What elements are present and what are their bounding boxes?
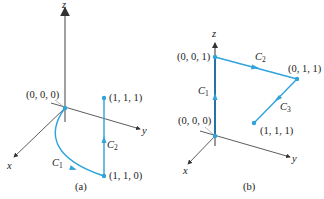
caption-b: (b) bbox=[243, 182, 255, 193]
arrow-c2-a bbox=[102, 136, 107, 143]
origin-leader-a bbox=[55, 100, 64, 107]
point-110-a bbox=[102, 174, 106, 178]
point-label-origin-a: (0, 0, 0) bbox=[26, 90, 59, 101]
curve-subscript: 1 bbox=[59, 161, 63, 170]
curve-label-c3-b: C3 bbox=[280, 102, 291, 114]
x-axis-label-b: x bbox=[183, 166, 188, 177]
point-label-110-a: (1, 1, 0) bbox=[109, 171, 142, 182]
x-axis-label-a: x bbox=[7, 161, 12, 172]
curve-name: C bbox=[280, 101, 287, 112]
curve-label-c1-b: C1 bbox=[198, 86, 209, 98]
caption-a: (a) bbox=[75, 182, 87, 193]
point-label-origin-b: (0, 0, 0) bbox=[178, 116, 211, 127]
x-axis-b bbox=[188, 136, 215, 164]
point-label-001-b: (0, 0, 1) bbox=[177, 52, 210, 63]
diagram-canvas: z y x (0, 0, 0) (1, 1, 1) (1, 1, 0) C1 C… bbox=[0, 0, 324, 199]
point-label-011-b: (0, 1, 1) bbox=[288, 64, 321, 75]
point-label-111-a: (1, 1, 1) bbox=[109, 93, 142, 104]
arrow-c1-b bbox=[213, 93, 218, 100]
curve-label-c1-a: C1 bbox=[52, 158, 63, 170]
point-011-b bbox=[295, 77, 299, 81]
curve-name: C bbox=[52, 157, 59, 168]
z-axis-label-a: z bbox=[62, 0, 66, 11]
point-001-b bbox=[213, 55, 217, 59]
point-111-a bbox=[102, 96, 106, 100]
curve-subscript: 1 bbox=[205, 89, 209, 98]
z-axis-label-b: z bbox=[212, 29, 216, 40]
curve-label-c2-b: C2 bbox=[255, 52, 266, 64]
curve-name: C bbox=[255, 51, 262, 62]
curve-name: C bbox=[107, 139, 114, 150]
curve-subscript: 2 bbox=[262, 55, 266, 64]
y-axis-label-b: y bbox=[292, 154, 297, 165]
point-origin-a bbox=[63, 106, 67, 110]
curve-label-c2-a: C2 bbox=[107, 140, 118, 152]
curve-name: C bbox=[198, 85, 205, 96]
point-label-111-b: (1, 1, 1) bbox=[260, 126, 293, 137]
x-axis-a bbox=[14, 108, 65, 157]
point-111-b bbox=[252, 121, 256, 125]
point-origin-b bbox=[213, 134, 217, 138]
y-axis-label-a: y bbox=[142, 126, 147, 137]
curve-subscript: 3 bbox=[287, 105, 291, 114]
curve-subscript: 2 bbox=[114, 143, 118, 152]
arrow-c1-a bbox=[69, 165, 77, 172]
